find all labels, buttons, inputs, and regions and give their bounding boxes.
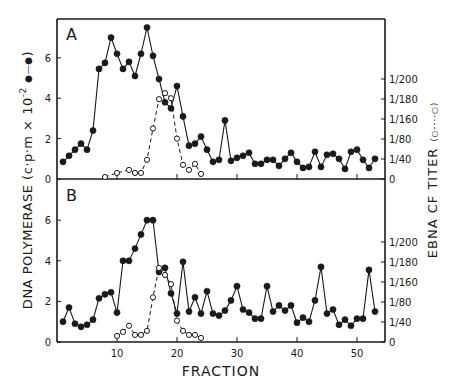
open-circle-marker bbox=[132, 332, 137, 337]
y2-tick-label: 1/200 bbox=[389, 74, 418, 85]
y2-tick-label: 0 bbox=[389, 337, 395, 348]
x-tick-label: 50 bbox=[351, 348, 364, 359]
y2-tick-label: 1/180 bbox=[389, 94, 418, 105]
filled-circle-marker bbox=[186, 308, 192, 314]
open-circle-marker bbox=[114, 170, 119, 175]
open-circle-marker bbox=[180, 162, 185, 167]
filled-circle-marker bbox=[192, 294, 198, 300]
filled-circle-marker bbox=[90, 317, 96, 323]
filled-circle-marker bbox=[366, 165, 372, 171]
x-tick-label: 40 bbox=[291, 348, 304, 359]
y2-tick-label: 1/80 bbox=[389, 297, 411, 308]
open-circle-marker bbox=[174, 136, 179, 141]
filled-circle-marker bbox=[210, 310, 216, 316]
open-circle-marker bbox=[168, 96, 173, 101]
open-circle-marker bbox=[156, 97, 161, 102]
open-circle-marker bbox=[186, 167, 191, 172]
y2-tick-label: 1/160 bbox=[389, 277, 418, 288]
filled-circle-marker bbox=[276, 163, 282, 169]
filled-circle-marker bbox=[342, 166, 348, 172]
open-circle-marker bbox=[186, 332, 191, 337]
open-circle-marker bbox=[144, 157, 149, 162]
y-tick-label: 4 bbox=[45, 256, 51, 267]
filled-circle-marker bbox=[198, 310, 204, 316]
filled-circle-marker bbox=[372, 308, 378, 314]
filled-circle-marker bbox=[348, 323, 354, 329]
filled-circle-marker bbox=[96, 66, 102, 72]
figure: 024601/401/801/1601/1801/200102030405002… bbox=[0, 0, 451, 391]
filled-circle-marker bbox=[114, 309, 120, 315]
y-tick-label: 6 bbox=[45, 215, 51, 226]
filled-circle-marker bbox=[180, 259, 186, 265]
filled-circle-marker bbox=[84, 322, 90, 328]
filled-circle-marker bbox=[234, 283, 240, 289]
filled-circle-marker bbox=[198, 133, 204, 139]
filled-circle-marker bbox=[84, 147, 90, 153]
filled-circle-marker bbox=[150, 53, 156, 59]
filled-circle-marker bbox=[264, 157, 270, 163]
y-tick-label: 2 bbox=[45, 296, 51, 307]
y2-tick-label: 1/80 bbox=[389, 134, 411, 145]
filled-circle-marker bbox=[138, 231, 144, 237]
filled-circle-marker bbox=[312, 297, 318, 303]
filled-circle-marker bbox=[102, 60, 108, 66]
filled-circle-marker bbox=[192, 141, 198, 147]
y-tick-label: 2 bbox=[45, 134, 51, 145]
filled-circle-marker bbox=[102, 291, 108, 297]
open-circle-marker bbox=[126, 167, 131, 172]
y-left-legend-dot: ●—● bbox=[23, 56, 33, 82]
filled-circle-marker bbox=[204, 147, 210, 153]
filled-circle-marker bbox=[162, 265, 168, 271]
open-circle-marker bbox=[192, 332, 197, 337]
svg-text:EBNA CF TITER(○----○): EBNA CF TITER(○----○) bbox=[425, 102, 440, 258]
filled-circle-marker bbox=[312, 149, 318, 155]
x-axis-label: FRACTION bbox=[182, 363, 261, 379]
filled-circle-marker bbox=[174, 310, 180, 316]
filled-circle-marker bbox=[342, 317, 348, 323]
polymerase-line bbox=[63, 28, 375, 169]
filled-circle-marker bbox=[288, 302, 294, 308]
filled-circle-marker bbox=[330, 151, 336, 157]
svg-text:DNA POLYMERASE (c·p·m × 10-2: DNA POLYMERASE (c·p·m × 10-2 ●—●) bbox=[18, 51, 35, 309]
filled-circle-marker bbox=[78, 141, 84, 147]
filled-circle-marker bbox=[288, 150, 294, 156]
y-left-label-close: ) bbox=[20, 51, 35, 57]
y-right-legend: (○----○) bbox=[430, 102, 439, 142]
y-right-label-main: EBNA CF TITER bbox=[425, 148, 440, 259]
filled-circle-marker bbox=[186, 143, 192, 149]
filled-circle-marker bbox=[96, 295, 102, 301]
open-circle-marker bbox=[132, 170, 137, 175]
filled-circle-marker bbox=[318, 164, 324, 170]
y-tick-label: 6 bbox=[45, 53, 51, 64]
open-circle-marker bbox=[138, 332, 143, 337]
filled-circle-marker bbox=[306, 164, 312, 170]
filled-circle-marker bbox=[282, 156, 288, 162]
filled-circle-marker bbox=[90, 127, 96, 133]
filled-circle-marker bbox=[240, 153, 246, 159]
filled-circle-marker bbox=[366, 267, 372, 273]
filled-circle-marker bbox=[294, 159, 300, 165]
y-tick-label: 0 bbox=[45, 174, 51, 185]
filled-circle-marker bbox=[294, 320, 300, 326]
y-tick-label: 4 bbox=[45, 93, 51, 104]
axis-ticks: 024601/401/801/1601/1801/200102030405002… bbox=[45, 53, 418, 359]
open-circle-marker bbox=[198, 171, 203, 176]
filled-circle-marker bbox=[252, 161, 258, 167]
y-left-label-main: DNA POLYMERASE (c·p·m × 10 bbox=[20, 97, 35, 309]
open-circle-marker bbox=[138, 170, 143, 175]
filled-circle-marker bbox=[222, 307, 228, 313]
open-circle-marker bbox=[144, 328, 149, 333]
filled-circle-marker bbox=[252, 316, 258, 322]
filled-circle-marker bbox=[132, 246, 138, 252]
filled-circle-marker bbox=[228, 297, 234, 303]
filled-circle-marker bbox=[318, 264, 324, 270]
filled-circle-marker bbox=[156, 76, 162, 82]
filled-circle-marker bbox=[120, 258, 126, 264]
filled-circle-marker bbox=[258, 161, 264, 167]
filled-circle-marker bbox=[72, 147, 78, 153]
filled-circle-marker bbox=[264, 283, 270, 289]
y2-tick-label: 1/40 bbox=[389, 154, 411, 165]
filled-circle-marker bbox=[216, 157, 222, 163]
filled-circle-marker bbox=[210, 159, 216, 165]
filled-circle-marker bbox=[216, 313, 222, 319]
